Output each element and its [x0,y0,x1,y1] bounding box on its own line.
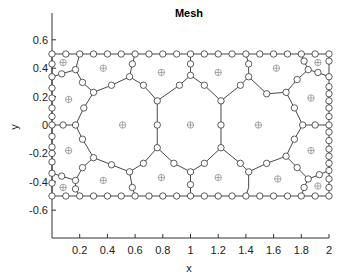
node-marker [63,193,69,199]
node-marker [312,193,318,199]
node-marker [79,79,85,85]
node-marker [90,154,96,160]
node-marker [326,184,332,190]
node-marker [326,137,332,143]
node-marker [72,177,78,183]
node-marker [187,181,193,187]
node-marker [126,74,132,80]
node-marker [243,193,249,199]
node-marker [270,193,276,199]
node-marker [154,145,160,151]
x-tick-label: 0.4 [100,244,115,256]
node-marker [90,51,96,57]
node-marker [108,82,114,88]
node-marker [72,122,78,128]
node-marker [126,169,132,175]
node-marker [326,167,332,173]
node-marker [316,172,322,178]
node-marker [132,193,138,199]
node-marker [326,98,332,104]
mesh-edge [221,148,240,164]
cell-center-marker [158,69,164,75]
node-marker [58,173,64,179]
y-tick-label: 0.2 [33,91,48,103]
node-marker [326,91,332,97]
y-tick-label: -0.2 [29,147,48,159]
node-marker [326,153,332,159]
node-marker [154,98,160,104]
node-marker [118,193,124,199]
node-marker [77,51,83,57]
node-marker [49,95,55,101]
node-marker [60,122,66,128]
node-marker [49,105,55,111]
node-marker [326,176,332,182]
node-marker [312,51,318,57]
cell-center-marker [275,176,281,182]
node-marker [49,159,55,165]
node-marker [215,51,221,57]
node-marker [326,193,332,199]
cell-center-marker [100,65,106,71]
node-marker [81,105,87,111]
y-tick-label: 0.4 [33,62,48,74]
node-marker [72,66,78,72]
node-marker [326,83,332,89]
cell-center-marker [315,183,321,189]
x-tick-label: 0.6 [127,244,142,256]
node-marker [49,113,55,119]
node-marker [104,193,110,199]
cell-center-marker [315,59,321,65]
node-marker [187,61,193,67]
node-marker [160,193,166,199]
y-tick-label: -0.4 [29,176,48,188]
node-marker [270,51,276,57]
mesh-plot-area [49,51,332,199]
node-marker [132,51,138,57]
node-marker [245,169,251,175]
node-marker [49,122,55,128]
cell-center-marker [60,59,66,65]
node-marker [283,89,289,95]
node-marker [79,136,85,142]
node-marker [294,76,300,82]
node-marker [187,169,193,175]
node-marker [326,113,332,119]
node-marker [49,150,55,156]
node-marker [173,193,179,199]
node-marker [49,144,55,150]
node-marker [49,170,55,176]
cell-center-marker [308,95,314,101]
cell-center-marker [215,174,221,180]
cell-center-marker [215,69,221,75]
y-tick-label: -0.6 [29,204,48,216]
x-tick-label: 0.8 [155,244,170,256]
cell-center-marker [273,65,279,71]
mesh-edge [249,77,267,94]
node-marker [291,105,297,111]
node-marker [154,122,160,128]
node-marker [171,160,177,166]
node-marker [129,184,135,190]
mesh-edge [157,85,179,101]
node-marker [294,164,300,170]
node-marker [49,61,55,67]
node-marker [90,193,96,199]
x-tick-label: 0.2 [72,244,87,256]
cell-center-marker [60,184,66,190]
node-marker [326,129,332,135]
node-marker [49,180,55,186]
node-marker [237,160,243,166]
node-marker [301,58,307,64]
node-marker [245,61,251,67]
x-tick-label: 2 [326,244,332,256]
node-marker [326,160,332,166]
node-marker [173,51,179,57]
node-marker [326,58,332,64]
node-marker [218,122,224,128]
node-marker [312,122,318,128]
node-marker [305,66,311,72]
node-marker [49,193,55,199]
node-marker [215,193,221,199]
node-marker [284,193,290,199]
